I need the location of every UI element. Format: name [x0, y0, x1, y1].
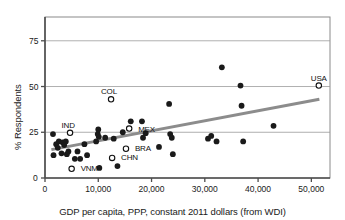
y-axis-label: % Respondents — [12, 84, 23, 150]
point-label-vnm: VNM — [81, 164, 98, 173]
point-label-usa: USA — [311, 74, 327, 83]
data-point-8 — [63, 139, 69, 145]
data-point-open-vnm — [69, 166, 74, 171]
data-point-28 — [120, 129, 126, 135]
data-point-43 — [219, 64, 225, 70]
point-label-mex: MEX — [138, 125, 155, 134]
data-point-open-bra — [123, 146, 128, 151]
data-point-41 — [208, 133, 214, 139]
x-tick-label-10000: 10,000 — [85, 184, 111, 194]
data-point-42 — [214, 139, 220, 145]
y-tick-label-50: 50 — [29, 82, 38, 92]
x-tick-label-30000: 30,000 — [192, 184, 218, 194]
data-point-5 — [59, 150, 65, 156]
data-point-13 — [72, 156, 78, 162]
data-point-open-ind — [67, 130, 72, 135]
data-point-38 — [169, 135, 175, 141]
chart-figure: Support for the death penalty GDP per ca… — [0, 0, 345, 220]
point-label-ind: IND — [62, 121, 75, 130]
x-tick-label-40000: 40,000 — [245, 184, 271, 194]
data-point-open-usa — [316, 83, 321, 88]
data-point-47 — [271, 123, 277, 129]
data-point-27 — [115, 163, 121, 169]
data-point-36 — [166, 101, 172, 107]
data-point-14 — [75, 149, 81, 155]
data-point-23 — [102, 135, 108, 141]
x-tick-label-0: 0 — [43, 184, 48, 194]
data-point-open-chn — [109, 155, 114, 160]
x-tick-label-20000: 20,000 — [139, 184, 165, 194]
data-point-21 — [96, 134, 102, 140]
data-point-26 — [111, 136, 117, 142]
y-tick-label-75: 75 — [29, 36, 38, 46]
data-point-3 — [55, 145, 61, 151]
x-axis-label: GDP per capita, PPP, constant 2011 dolla… — [0, 206, 345, 217]
data-point-15 — [77, 156, 83, 162]
y-tick-label-25: 25 — [29, 127, 38, 137]
data-point-35 — [156, 144, 162, 150]
data-point-44 — [238, 83, 244, 89]
data-point-open-col — [108, 97, 113, 102]
data-point-20 — [95, 127, 101, 133]
data-point-0 — [50, 131, 56, 137]
point-label-bra: BRA — [135, 144, 151, 153]
trendline — [51, 99, 319, 149]
data-point-1 — [51, 152, 57, 158]
data-point-46 — [240, 139, 246, 145]
data-point-32 — [139, 118, 145, 124]
data-point-open-mex — [126, 126, 131, 131]
y-tick-label-0: 0 — [33, 173, 38, 183]
point-label-col: COL — [101, 87, 117, 96]
point-label-chn: CHN — [121, 153, 138, 162]
x-tick-label-50000: 50,000 — [298, 184, 324, 194]
data-point-16 — [82, 141, 88, 147]
scatter-plot-canvas — [0, 0, 345, 220]
data-point-39 — [170, 151, 176, 157]
data-point-10 — [66, 149, 72, 155]
data-point-17 — [84, 152, 90, 158]
data-point-45 — [239, 103, 245, 109]
data-point-31 — [128, 118, 134, 124]
